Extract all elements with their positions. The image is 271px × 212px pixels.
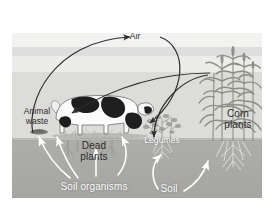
- label-soil-organisms: Soil organisms: [44, 181, 144, 192]
- label-soil: Soil: [152, 183, 186, 194]
- arrow-soil-to-corn-roots: [184, 161, 208, 191]
- illustration-canvas: Air Animal waste Dead plants Soil organi…: [0, 0, 271, 212]
- label-air: Air: [120, 33, 150, 42]
- label-corn-plants: Corn plants: [216, 108, 260, 130]
- label-dead-plants: Dead plants: [66, 140, 122, 162]
- nitrogen-cycle-figure: Air Animal waste Dead plants Soil organi…: [12, 33, 262, 198]
- label-legumes: Legumes: [134, 136, 190, 146]
- label-animal-waste: Animal waste: [16, 107, 58, 126]
